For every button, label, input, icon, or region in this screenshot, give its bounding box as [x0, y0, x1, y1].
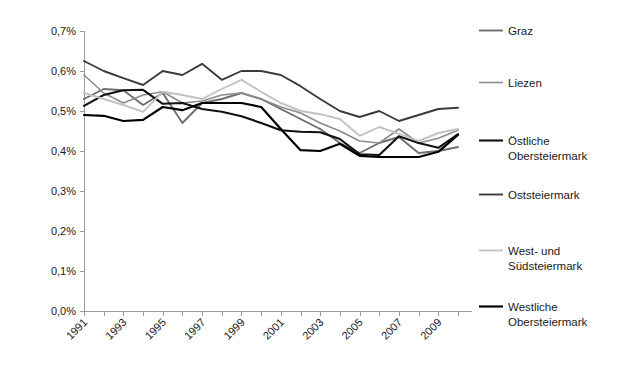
x-axis-tick-label: 2007 — [379, 316, 405, 342]
x-axis-tick-label-group: 1993 — [103, 316, 129, 342]
legend-label-line2: Obersteiermark — [508, 316, 587, 328]
series-line-stliche-obersteiermark — [84, 90, 458, 155]
legend-label: Oststeiermark — [508, 189, 580, 201]
x-axis-tick-label: 1999 — [221, 316, 247, 342]
x-axis-tick-label: 2003 — [300, 316, 326, 342]
x-axis-tick-label: 1991 — [64, 316, 90, 342]
x-axis-tick-label: 1995 — [142, 316, 168, 342]
legend-label: Westliche — [508, 301, 558, 313]
x-axis-tick-label-group: 2001 — [260, 316, 286, 342]
legend-item-west-und-s-dsteiermark[interactable]: West- undSüdsteiermark — [479, 245, 582, 272]
y-axis-tick-label: 0,2% — [51, 225, 76, 237]
y-axis-tick-label: 0,7% — [51, 25, 76, 37]
legend-item-liezen[interactable]: Liezen — [479, 77, 542, 89]
x-axis-tick-label-group: 2009 — [418, 316, 444, 342]
x-axis-tick-label-group: 2005 — [339, 316, 365, 342]
x-axis-tick-label: 2009 — [418, 316, 444, 342]
y-axis-tick-label: 0,3% — [51, 185, 76, 197]
x-axis-tick-label-group: 1999 — [221, 316, 247, 342]
line-chart: 0,0%0,1%0,2%0,3%0,4%0,5%0,6%0,7%19911993… — [0, 0, 619, 372]
y-axis-tick-label: 0,0% — [51, 305, 76, 317]
legend-label-line2: Südsteiermark — [508, 260, 582, 272]
x-axis-tick-label: 1993 — [103, 316, 129, 342]
legend-item-westliche-obersteiermark[interactable]: WestlicheObersteiermark — [479, 301, 587, 328]
series-line-oststeiermark — [84, 61, 458, 121]
x-axis-tick-label-group: 1997 — [182, 316, 208, 342]
y-axis-tick-label: 0,5% — [51, 105, 76, 117]
x-axis-tick-label: 2001 — [260, 316, 286, 342]
legend-item-oststeiermark[interactable]: Oststeiermark — [479, 189, 580, 201]
legend-item-stliche-obersteiermark[interactable]: ÖstlicheObersteiermark — [479, 135, 587, 162]
legend-label-line2: Obersteiermark — [508, 150, 587, 162]
legend-item-graz[interactable]: Graz — [479, 25, 533, 37]
y-axis-tick-label: 0,6% — [51, 65, 76, 77]
legend-label: West- und — [508, 245, 560, 257]
x-axis-tick-label: 1997 — [182, 316, 208, 342]
legend-label: Östliche — [508, 135, 550, 147]
x-axis-tick-label-group: 1991 — [64, 316, 90, 342]
y-axis-tick-label: 0,1% — [51, 265, 76, 277]
x-axis-tick-label-group: 2003 — [300, 316, 326, 342]
x-axis-tick-label-group: 1995 — [142, 316, 168, 342]
series-line-liezen — [84, 75, 458, 143]
legend-label: Liezen — [508, 77, 542, 89]
y-axis-tick-label: 0,4% — [51, 145, 76, 157]
x-axis-tick-label: 2005 — [339, 316, 365, 342]
chart-canvas: 0,0%0,1%0,2%0,3%0,4%0,5%0,6%0,7%19911993… — [0, 0, 619, 372]
x-axis-tick-label-group: 2007 — [379, 316, 405, 342]
legend-label: Graz — [508, 25, 533, 37]
